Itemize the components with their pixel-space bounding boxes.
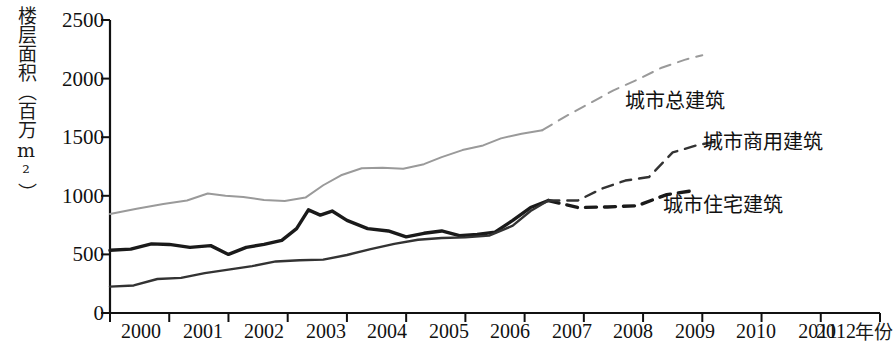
series-2-dashed bbox=[548, 141, 720, 201]
chart-figure: 楼层面积（百万m²） 2500 2000 1500 1000 500 0 200… bbox=[0, 0, 895, 350]
x-tick-label-2007: 2007 bbox=[541, 320, 603, 342]
x-tick-label-2003: 2003 bbox=[295, 320, 357, 342]
series-label-residential: 城市住宅建筑 bbox=[663, 194, 783, 216]
x-tick-label-2008: 2008 bbox=[602, 320, 664, 342]
axis-lines bbox=[101, 20, 880, 322]
x-tick-label-2002: 2002 bbox=[233, 320, 295, 342]
series-0-solid bbox=[110, 130, 542, 214]
x-tick-label-2010: 2010 bbox=[725, 320, 787, 342]
x-axis-title: 年份 bbox=[855, 321, 893, 343]
x-tick-label-2006: 2006 bbox=[479, 320, 541, 342]
x-tick-label-2004: 2004 bbox=[356, 320, 418, 342]
x-tick-label-2000: 2000 bbox=[110, 320, 172, 342]
series-1-solid bbox=[110, 200, 548, 254]
x-tick-label-2009: 2009 bbox=[664, 320, 726, 342]
series-label-total: 城市总建筑 bbox=[625, 90, 725, 112]
x-tick-label-2005: 2005 bbox=[418, 320, 480, 342]
plot-area bbox=[0, 0, 895, 350]
x-tick-label-2001: 2001 bbox=[172, 320, 234, 342]
series-label-commercial: 城市商用建筑 bbox=[703, 131, 823, 153]
